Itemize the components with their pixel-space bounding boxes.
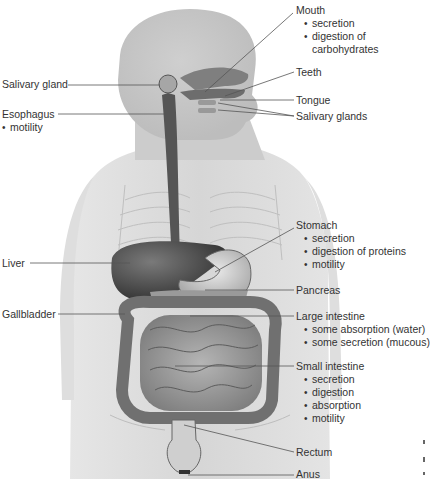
large-intestine-function: some absorption (water) — [304, 323, 430, 336]
small-intestine-function: secretion — [304, 373, 364, 386]
mouth-function: digestion of — [304, 30, 379, 43]
stomach-function: motility — [304, 258, 406, 271]
large-intestine-functions: some absorption (water) some secretion (… — [296, 323, 430, 349]
label-salivary-glands-title: Salivary glands — [296, 110, 367, 123]
mouth-function: secretion — [304, 17, 379, 30]
esophagus-functions: motility — [2, 121, 55, 134]
label-gallbladder-title: Gallbladder — [2, 308, 56, 321]
label-anus-title: Anus — [296, 468, 320, 479]
label-tongue: Tongue — [296, 94, 330, 107]
label-pancreas: Pancreas — [296, 284, 340, 297]
label-liver: Liver — [2, 257, 25, 270]
small-intestine-organ — [140, 315, 262, 411]
stomach-functions: secretion digestion of proteins motility — [296, 232, 406, 271]
label-mouth-title: Mouth — [296, 4, 379, 17]
label-stomach-title: Stomach — [296, 219, 406, 232]
label-small-intestine-title: Small intestine — [296, 360, 364, 373]
label-mouth: Mouth secretion digestion of carbohydrat… — [296, 4, 379, 56]
small-intestine-function: digestion — [304, 386, 364, 399]
salivary-gland-shape — [159, 75, 177, 93]
label-salivary-glands: Salivary glands — [296, 110, 367, 123]
label-teeth: Teeth — [296, 66, 322, 79]
label-liver-title: Liver — [2, 257, 25, 270]
label-pancreas-title: Pancreas — [296, 284, 340, 297]
label-small-intestine: Small intestine secretion digestion abso… — [296, 360, 364, 425]
label-tongue-title: Tongue — [296, 94, 330, 107]
small-intestine-functions: secretion digestion absorption motility — [296, 373, 364, 425]
label-teeth-title: Teeth — [296, 66, 322, 79]
mouth-functions: secretion digestion of carbohydrates — [296, 17, 379, 56]
anus-organ — [179, 470, 190, 474]
mouth-function-continued: carbohydrates — [304, 43, 379, 56]
label-esophagus: Esophagus motility — [2, 108, 55, 134]
label-rectum-title: Rectum — [296, 446, 332, 459]
stomach-function: digestion of proteins — [304, 245, 406, 258]
label-rectum: Rectum — [296, 446, 332, 459]
label-large-intestine: Large intestine some absorption (water) … — [296, 310, 430, 349]
label-salivary-gland: Salivary gland — [2, 78, 68, 91]
label-anus: Anus — [296, 468, 320, 479]
small-intestine-function: motility — [304, 412, 364, 425]
label-stomach: Stomach secretion digestion of proteins … — [296, 219, 406, 271]
edge-marks — [423, 440, 425, 475]
label-gallbladder: Gallbladder — [2, 308, 56, 321]
label-salivary-gland-title: Salivary gland — [2, 78, 68, 91]
large-intestine-function: some secretion (mucous) — [304, 336, 430, 349]
small-intestine-function: absorption — [304, 399, 364, 412]
label-esophagus-title: Esophagus — [2, 108, 55, 121]
label-large-intestine-title: Large intestine — [296, 310, 430, 323]
esophagus-function: motility — [2, 121, 55, 134]
stomach-function: secretion — [304, 232, 406, 245]
